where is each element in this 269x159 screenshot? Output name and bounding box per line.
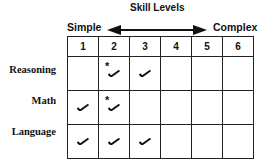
grid-cell: [192, 125, 223, 159]
check-icon: [108, 137, 120, 145]
check-icon: [108, 103, 120, 111]
grid-cell: [68, 125, 99, 159]
grid-cell: [130, 125, 161, 159]
grid-cell: [99, 125, 130, 159]
column-header: 3: [130, 37, 161, 57]
row-label-math: Math: [0, 95, 56, 106]
grid-cell: *: [99, 57, 130, 91]
grid-cell: [130, 57, 161, 91]
grid-cell: [68, 57, 99, 91]
column-header: 6: [223, 37, 254, 57]
grid-cell: *: [99, 91, 130, 125]
column-header: 1: [68, 37, 99, 57]
check-icon: [139, 137, 151, 145]
grid-cell: [223, 125, 254, 159]
column-header: 5: [192, 37, 223, 57]
double-arrow-icon: [107, 24, 207, 36]
check-icon: [139, 69, 151, 77]
row-label-language: Language: [0, 126, 56, 137]
column-header: 4: [161, 37, 192, 57]
row-label-reasoning: Reasoning: [0, 64, 56, 75]
grid-cell: [192, 91, 223, 125]
grid-cell: [161, 57, 192, 91]
grid-cell: [223, 91, 254, 125]
grid-cell: [192, 57, 223, 91]
grid-cell: [223, 57, 254, 91]
skill-grid: 1 2 3 4 5 6 * *: [67, 36, 254, 159]
simple-label: Simple: [67, 21, 101, 33]
column-header: 2: [99, 37, 130, 57]
grid-cell: [161, 125, 192, 159]
grid-cell: [130, 91, 161, 125]
check-icon: [77, 103, 89, 111]
check-icon: [77, 137, 89, 145]
grid-row-reasoning: *: [68, 57, 254, 91]
grid-cell: [68, 91, 99, 125]
check-icon: [108, 69, 120, 77]
grid-cell: [161, 91, 192, 125]
grid-row-language: [68, 125, 254, 159]
skill-levels-title: Skill Levels: [130, 2, 184, 13]
grid-row-math: *: [68, 91, 254, 125]
complex-label: Complex: [213, 21, 257, 33]
header-row: 1 2 3 4 5 6: [68, 37, 254, 57]
